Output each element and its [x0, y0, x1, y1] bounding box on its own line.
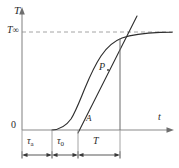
- dimension-label-3: T: [93, 136, 99, 146]
- x-axis-label: t: [158, 112, 161, 122]
- dimension-label-2: τ0: [57, 136, 64, 146]
- y-axis-label: T: [14, 5, 20, 16]
- dimension-arrow-3-left-icon: [78, 153, 84, 157]
- dimension-arrow-1-right-icon: [47, 153, 53, 157]
- tangent-foot-label: A: [86, 114, 92, 123]
- response-curve: [52, 32, 172, 130]
- x-axis-arrow-icon: [167, 127, 175, 132]
- dimension-arrow-1-left-icon: [22, 153, 28, 157]
- asymptote-label-subscript: ∞: [13, 25, 19, 35]
- figure-container: T t T∞ 0 P A τa τ0 T: [0, 0, 179, 168]
- inflection-point-label: P: [99, 62, 105, 72]
- inflection-point-marker: [107, 69, 109, 71]
- origin-label: 0: [11, 120, 16, 130]
- dimension-arrow-2-left-icon: [52, 153, 58, 157]
- dimension-arrow-3-right-icon: [115, 153, 121, 157]
- dimension-label-1: τa: [27, 136, 34, 146]
- dimension-label-2-subscript: 0: [61, 140, 65, 148]
- asymptote-label: T∞: [7, 25, 19, 35]
- dimension-label-3-base: T: [93, 135, 99, 146]
- dimension-arrow-2-right-icon: [73, 153, 79, 157]
- dimension-label-1-subscript: a: [31, 140, 34, 148]
